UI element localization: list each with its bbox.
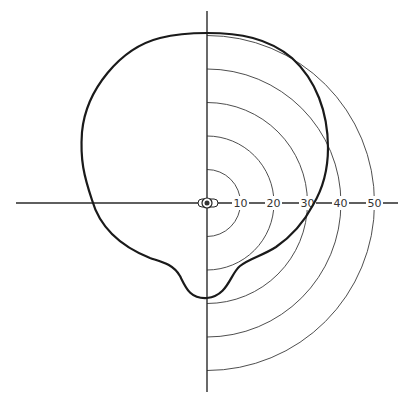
polar-diagram: 10 20 30 40 50	[0, 0, 406, 406]
radial-label-10: 10	[234, 197, 248, 210]
radial-label-20: 20	[267, 197, 281, 210]
radial-label-40: 40	[334, 197, 348, 210]
source-icon	[198, 198, 218, 208]
radial-label-50: 50	[368, 197, 382, 210]
